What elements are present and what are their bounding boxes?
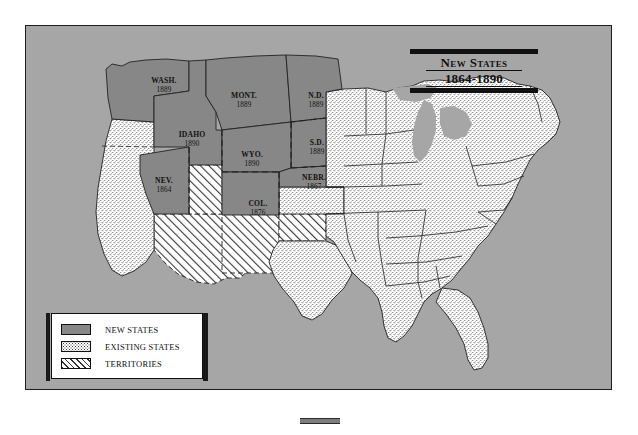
state-label-wyoming: WYO. — [241, 150, 263, 159]
legend-label-new-states: NEW STATES — [105, 325, 158, 335]
legend-shadow-right — [203, 313, 208, 381]
state-label-nevada: NEV. — [155, 176, 173, 185]
state-year-wyoming: 1890 — [244, 160, 259, 168]
state-year-nevada: 1864 — [156, 186, 171, 194]
map-legend: NEW STATES EXISTING STATES TERRITORIES — [51, 313, 203, 379]
existing-state-kansas — [279, 187, 344, 214]
legend-swatch-new-states — [61, 324, 91, 335]
state-label-colorado: COL. — [248, 199, 267, 208]
existing-state-pacific-coast — [96, 119, 154, 276]
state-label-south-dakota: S.D. — [310, 138, 324, 147]
legend-label-existing-states: EXISTING STATES — [105, 342, 180, 352]
state-label-montana: MONT. — [231, 91, 257, 100]
map-title-dates: 1864-1890 — [426, 70, 522, 87]
legend-label-territories: TERRITORIES — [105, 359, 162, 369]
bottom-rule — [300, 418, 340, 424]
map-page: WASH. 1889 MONT. 1889 N.D. 1889 S.D. 188… — [0, 0, 638, 435]
state-label-north-dakota: N.D. — [308, 91, 324, 100]
state-year-north-dakota: 1889 — [308, 101, 323, 109]
legend-swatch-existing-states — [61, 341, 91, 352]
state-year-idaho: 1890 — [184, 140, 199, 148]
territory-indian — [279, 214, 326, 241]
legend-item-existing-states: EXISTING STATES — [61, 338, 202, 355]
state-label-nebraska: NEBR. — [302, 173, 326, 182]
map-title-block: New States 1864-1890 — [410, 49, 538, 93]
legend-shadow-left — [46, 313, 50, 381]
legend-item-territories: TERRITORIES — [61, 355, 202, 372]
legend-item-new-states: NEW STATES — [61, 321, 202, 338]
existing-state-florida — [436, 288, 488, 370]
map-title: New States — [410, 55, 538, 70]
existing-state-texas — [269, 241, 352, 320]
state-year-washington: 1889 — [156, 86, 171, 94]
state-year-montana: 1889 — [236, 101, 251, 109]
map-panel: WASH. 1889 MONT. 1889 N.D. 1889 S.D. 188… — [25, 25, 612, 390]
title-rule-top — [410, 49, 538, 54]
state-year-south-dakota: 1889 — [309, 148, 324, 156]
state-label-idaho: IDAHO — [179, 130, 206, 139]
title-rule-bottom — [410, 88, 538, 93]
territory-utah — [189, 165, 222, 214]
state-year-nebraska: 1867 — [306, 183, 321, 191]
legend-swatch-territories — [61, 358, 91, 369]
state-label-washington: WASH. — [151, 76, 176, 85]
state-year-colorado: 1876 — [250, 209, 265, 217]
